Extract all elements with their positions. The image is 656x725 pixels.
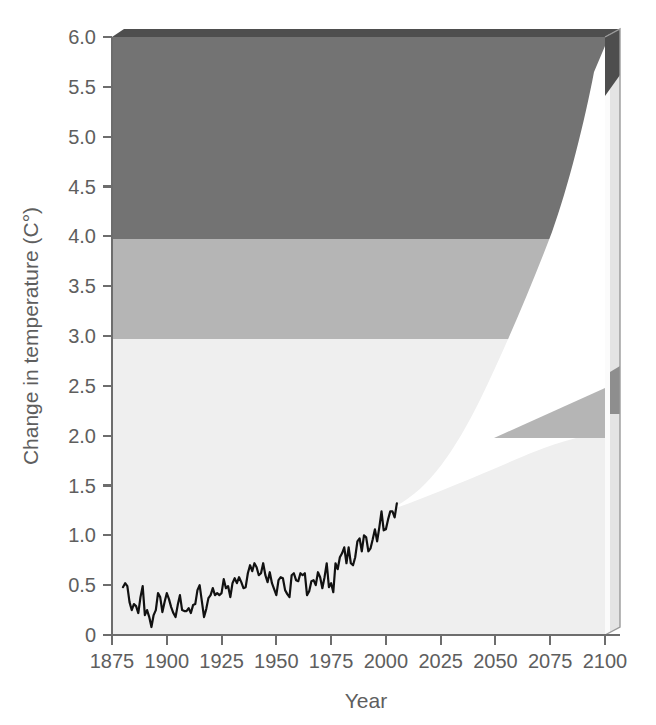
y-tick-label: 2.5 bbox=[68, 375, 96, 397]
x-axis-ticks bbox=[112, 635, 605, 645]
y-tick-label: 0.5 bbox=[68, 574, 96, 596]
y-tick-label: 6.0 bbox=[68, 26, 96, 48]
temperature-change-chart: 00.51.01.52.02.53.03.54.04.55.05.56.0 18… bbox=[0, 0, 656, 725]
plot-side-panel-3d bbox=[605, 29, 620, 635]
side-panel-mid-patch bbox=[610, 366, 620, 414]
climate-projection-figure: 00.51.01.52.02.53.03.54.04.55.05.56.0 18… bbox=[0, 0, 656, 725]
x-axis-tick-labels: 1875190019251950197520002025205020752100 bbox=[90, 650, 628, 672]
y-axis-title: Change in temperature (C°) bbox=[19, 207, 42, 465]
y-axis-ticks bbox=[103, 37, 112, 635]
x-tick-label: 1925 bbox=[199, 650, 244, 672]
x-tick-label: 2050 bbox=[473, 650, 518, 672]
x-tick-label: 1950 bbox=[254, 650, 299, 672]
plot-top-lid-3d bbox=[112, 29, 620, 37]
x-tick-label: 1975 bbox=[309, 650, 354, 672]
x-tick-label: 1875 bbox=[90, 650, 135, 672]
y-tick-label: 1.0 bbox=[68, 524, 96, 546]
x-tick-label: 2025 bbox=[418, 650, 463, 672]
x-axis-title: Year bbox=[345, 689, 387, 712]
y-tick-label: 1.5 bbox=[68, 475, 96, 497]
y-tick-label: 2.0 bbox=[68, 425, 96, 447]
x-tick-label: 2075 bbox=[528, 650, 573, 672]
x-tick-label: 2100 bbox=[583, 650, 628, 672]
y-tick-label: 3.0 bbox=[68, 325, 96, 347]
y-tick-label: 4.0 bbox=[68, 225, 96, 247]
risk-band-high bbox=[112, 37, 605, 239]
y-tick-label: 0 bbox=[85, 624, 96, 646]
y-tick-label: 5.5 bbox=[68, 76, 96, 98]
y-axis-tick-labels: 00.51.01.52.02.53.03.54.04.55.05.56.0 bbox=[68, 26, 96, 646]
y-tick-label: 3.5 bbox=[68, 275, 96, 297]
x-tick-label: 1900 bbox=[145, 650, 190, 672]
y-tick-label: 4.5 bbox=[68, 176, 96, 198]
y-tick-label: 5.0 bbox=[68, 126, 96, 148]
x-tick-label: 2000 bbox=[364, 650, 409, 672]
side-panel-highlight bbox=[605, 34, 610, 635]
